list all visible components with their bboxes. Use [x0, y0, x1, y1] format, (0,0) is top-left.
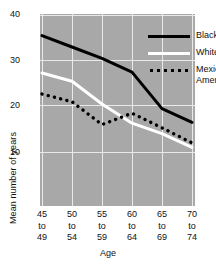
x-tick-end-65-69: 69	[147, 232, 177, 244]
y-axis-label: Mean number of years	[8, 128, 18, 228]
dotted-black-line-swatch-icon	[148, 64, 190, 76]
legend: Blacks Whites Mexican Americans	[148, 30, 216, 91]
x-tick-end-55-59: 59	[87, 232, 117, 244]
x-tick-label-45-49: 45 to 49	[27, 209, 57, 244]
x-axis-label: Age	[0, 248, 216, 258]
legend-item-blacks: Blacks	[148, 30, 216, 42]
solid-black-line-swatch-icon	[148, 30, 190, 42]
legend-label-blacks: Blacks	[196, 30, 216, 41]
legend-item-whites: Whites	[148, 47, 216, 59]
x-tick-label-55-59: 55 to 59	[87, 209, 117, 244]
x-tick-label-65-69: 65 to 69	[147, 209, 177, 244]
legend-label-whites: Whites	[196, 47, 216, 58]
plot-area: Blacks Whites Mexican Americans	[40, 14, 195, 206]
x-tick-end-50-54: 54	[57, 232, 87, 244]
legend-item-mexican-americans: Mexican Americans	[148, 64, 216, 86]
x-tick-to-55-59: to	[87, 221, 117, 233]
x-tick-to-65-69: to	[147, 221, 177, 233]
x-tick-to-60-64: to	[117, 221, 147, 233]
y-tick-label-20: 20	[0, 101, 20, 110]
x-tick-start-70-74: 70	[177, 209, 207, 221]
legend-label-mexican-americans: Mexican Americans	[196, 64, 216, 86]
x-tick-label-60-64: 60 to 64	[117, 209, 147, 244]
chart-figure: Mean number of years 40 30 20 10	[0, 0, 216, 264]
x-tick-start-65-69: 65	[147, 209, 177, 221]
x-tick-label-50-54: 50 to 54	[57, 209, 87, 244]
x-tick-to-50-54: to	[57, 221, 87, 233]
y-tick-label-10: 10	[0, 148, 20, 157]
x-tick-to-70-74: to	[177, 221, 207, 233]
x-tick-end-60-64: 64	[117, 232, 147, 244]
y-tick-label-40: 40	[0, 10, 20, 19]
x-tick-start-60-64: 60	[117, 209, 147, 221]
x-tick-start-55-59: 55	[87, 209, 117, 221]
y-tick-label-30: 30	[0, 56, 20, 65]
x-tick-label-70-74: 70 to 74	[177, 209, 207, 244]
x-tick-start-50-54: 50	[57, 209, 87, 221]
x-tick-start-45-49: 45	[27, 209, 57, 221]
x-tick-end-70-74: 74	[177, 232, 207, 244]
solid-white-line-swatch-icon	[148, 47, 190, 59]
x-tick-to-45-49: to	[27, 221, 57, 233]
x-tick-end-45-49: 49	[27, 232, 57, 244]
